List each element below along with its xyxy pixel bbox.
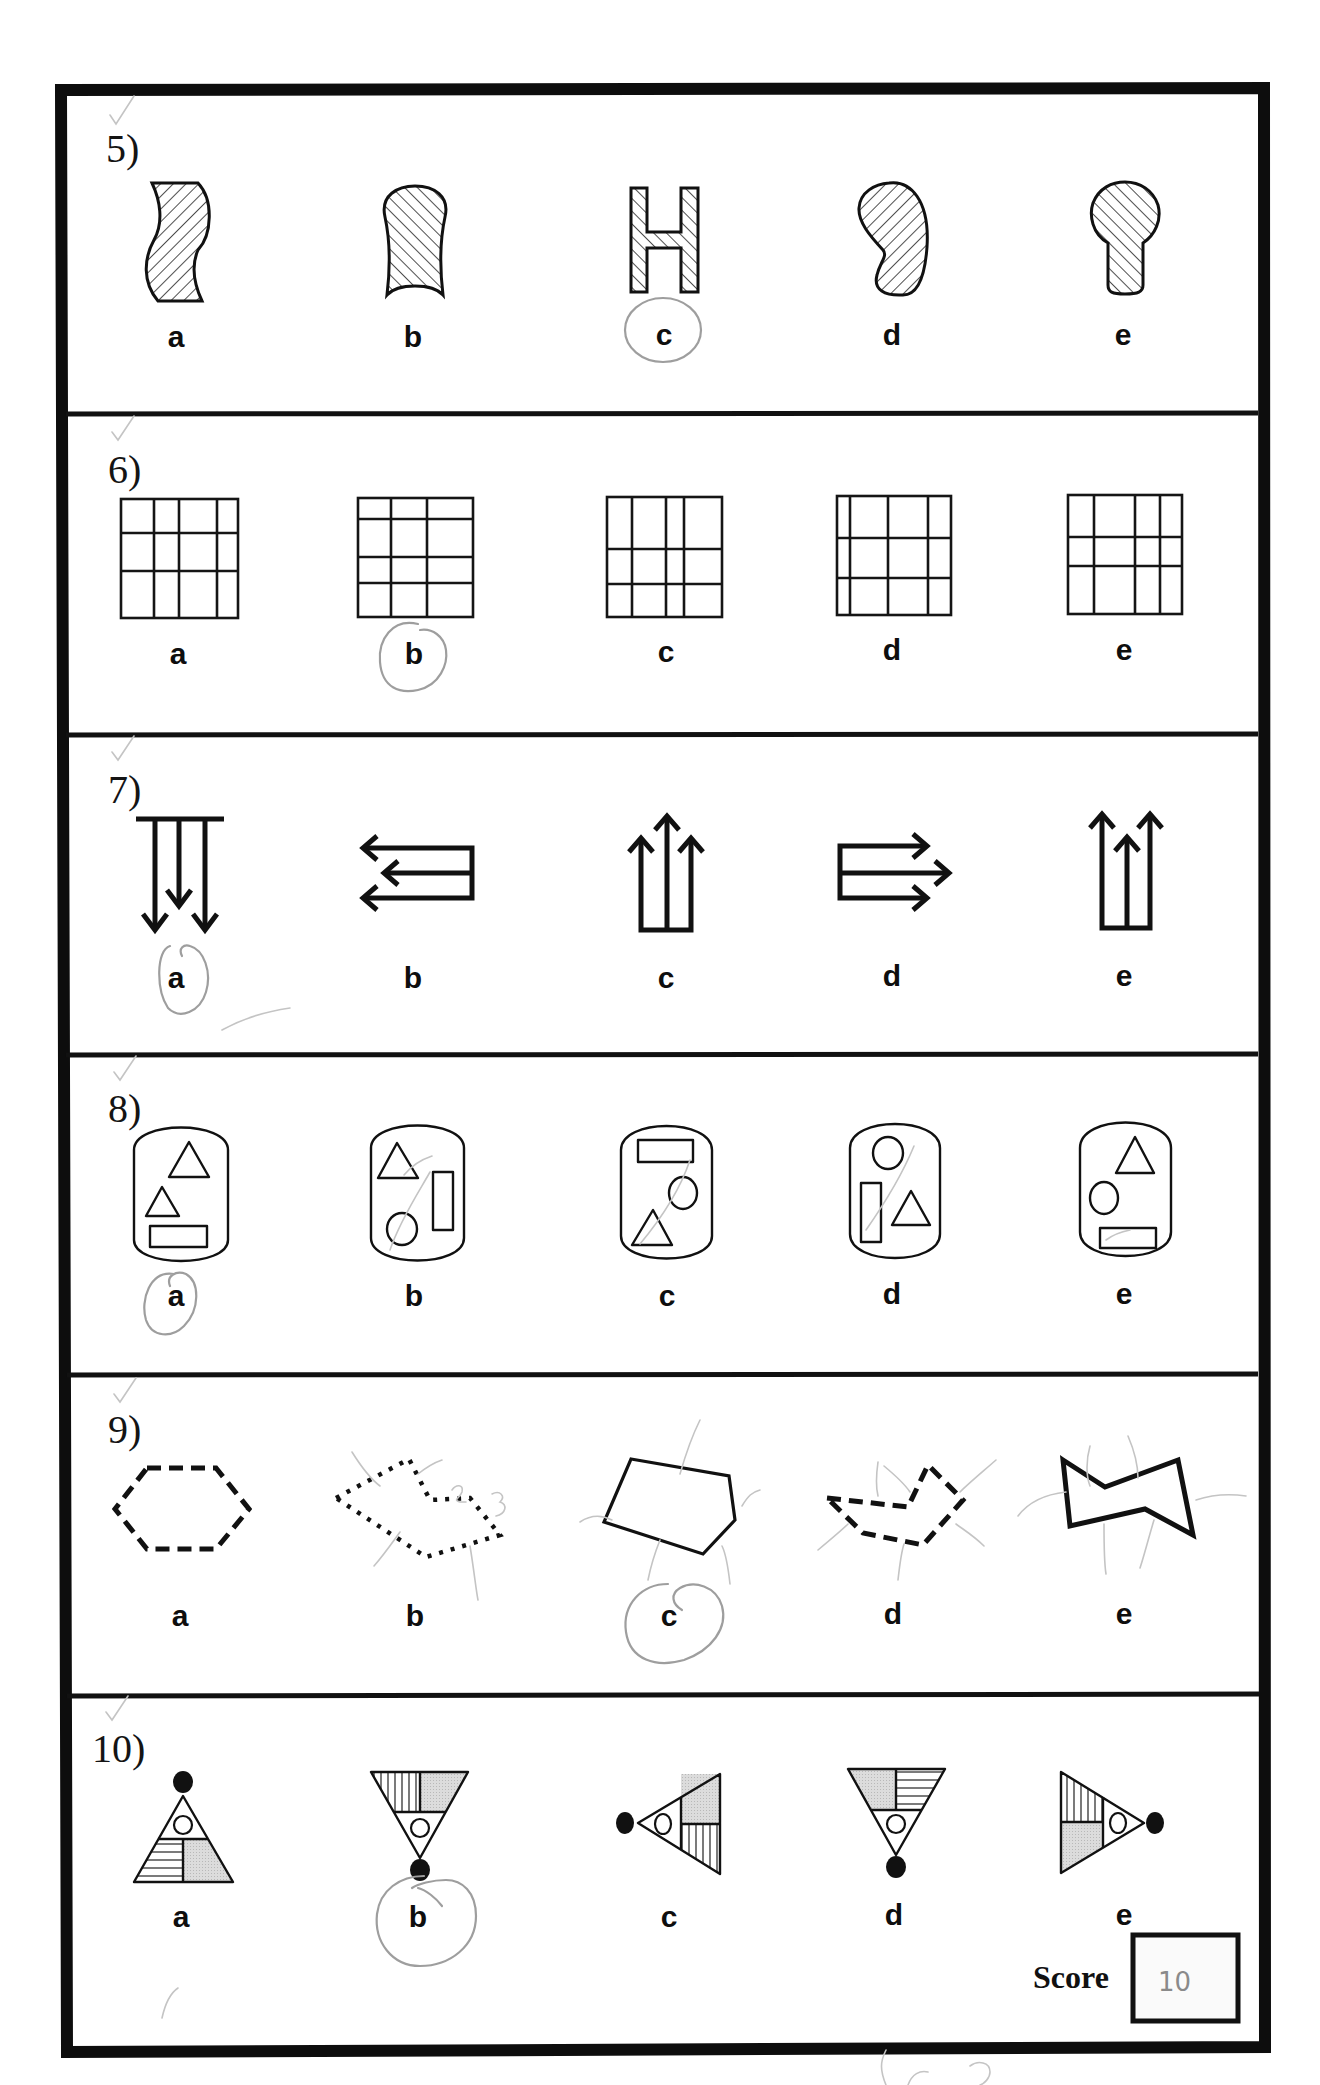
option-7b[interactable]: b	[363, 836, 472, 994]
check-mark-icon	[112, 416, 134, 440]
option-label: b	[406, 1599, 424, 1632]
worksheet-page: 5) a b c d e 6)	[0, 0, 1320, 2085]
option-8a[interactable]: a	[134, 1128, 228, 1335]
question-number: 9)	[108, 1407, 141, 1452]
ring-icon	[887, 1815, 905, 1833]
arrows-up-icon	[629, 816, 703, 930]
option-label: b	[405, 637, 423, 670]
letter-h-shape	[631, 188, 698, 292]
rectangle-icon	[433, 1172, 453, 1230]
option-label: a	[168, 320, 185, 353]
option-5d[interactable]: d	[859, 183, 927, 351]
rectangle-icon	[638, 1140, 693, 1162]
option-9a[interactable]: a	[115, 1468, 249, 1632]
option-10b[interactable]: b	[371, 1772, 476, 1966]
option-label: e	[1116, 1277, 1133, 1310]
pencil-stroke	[222, 1008, 290, 1030]
option-label: e	[1116, 633, 1133, 666]
option-7c[interactable]: c	[629, 816, 703, 994]
pencil-strokes	[818, 1460, 996, 1580]
question-number: 6)	[108, 447, 141, 492]
option-label: b	[409, 1900, 427, 1933]
option-9d[interactable]: d	[818, 1460, 996, 1630]
option-label: c	[658, 961, 675, 994]
capsule-outline	[850, 1124, 940, 1258]
option-6d[interactable]: d	[837, 496, 951, 666]
option-label: a	[170, 637, 187, 670]
option-9c[interactable]: c	[580, 1420, 760, 1663]
keyhole-shape	[1091, 182, 1159, 294]
option-10a[interactable]: a	[134, 1771, 233, 1933]
circle-icon	[669, 1177, 697, 1209]
score-label: Score	[1033, 1959, 1109, 1995]
outer-frame	[61, 88, 1265, 2052]
black-dot-icon	[173, 1771, 193, 1793]
option-label: b	[405, 1279, 423, 1312]
question-number: 10)	[92, 1726, 145, 1771]
arrows-right-icon	[840, 834, 949, 910]
option-5e[interactable]: e	[1091, 182, 1159, 351]
question-6: 6) a b c	[108, 416, 1182, 691]
bean-shape	[859, 183, 927, 295]
option-8e[interactable]: e	[1080, 1123, 1171, 1311]
pentagon-shape	[604, 1459, 735, 1554]
option-10e[interactable]: e	[1061, 1772, 1164, 1931]
option-label: a	[172, 1599, 189, 1632]
option-6e[interactable]: e	[1068, 495, 1182, 666]
triangle-icon	[378, 1143, 418, 1178]
arrows-down-icon	[136, 819, 224, 930]
option-5a[interactable]: a	[146, 183, 209, 353]
option-6b[interactable]: b	[358, 498, 473, 691]
triangle-icon	[892, 1191, 930, 1225]
option-10c[interactable]: c	[616, 1774, 720, 1933]
question-number: 5)	[106, 126, 139, 171]
ring-icon	[174, 1816, 192, 1834]
triangle-icon	[1116, 1137, 1154, 1173]
option-label: d	[883, 318, 901, 351]
circle-icon	[1090, 1182, 1118, 1214]
black-dot-icon	[616, 1812, 634, 1834]
ring-icon	[1110, 1813, 1126, 1833]
arrows-up-icon	[1090, 814, 1162, 928]
score-value: 10	[1158, 1967, 1191, 1997]
capsule-outline	[134, 1128, 228, 1262]
option-7d[interactable]: d	[840, 834, 949, 992]
dashed-polygon-shape	[827, 1465, 963, 1545]
option-label: b	[404, 961, 422, 994]
option-8b[interactable]: b	[371, 1126, 464, 1313]
pencil-annotations	[352, 1452, 505, 1600]
arrows-left-icon	[363, 836, 472, 910]
option-5c[interactable]: c	[625, 188, 701, 362]
question-number: 7)	[108, 767, 141, 812]
option-label: a	[168, 961, 185, 994]
score-area: Score 10	[1033, 1935, 1238, 2021]
check-mark-icon	[110, 96, 134, 124]
option-label: e	[1115, 318, 1132, 351]
option-6c[interactable]: c	[607, 497, 722, 668]
option-9e[interactable]: e	[1018, 1436, 1246, 1630]
option-8c[interactable]: c	[621, 1126, 712, 1312]
option-label: d	[883, 959, 901, 992]
option-label: e	[1116, 1597, 1133, 1630]
option-7a[interactable]: a	[136, 819, 224, 1014]
ring-icon	[411, 1819, 429, 1837]
option-9b[interactable]: b	[336, 1452, 505, 1632]
circle-icon	[387, 1213, 417, 1245]
option-6a[interactable]: a	[121, 499, 238, 670]
dome-shape	[384, 186, 446, 295]
check-mark-icon	[106, 1696, 128, 1720]
triangle-icon	[632, 1210, 672, 1245]
question-7: 7) a b	[108, 736, 1162, 1030]
question-9: 9) a b c	[108, 1378, 1246, 1663]
check-mark-icon	[114, 1378, 136, 1402]
option-label: e	[1116, 1898, 1133, 1931]
triangle-icon	[146, 1187, 179, 1216]
question-number: 8)	[108, 1086, 141, 1131]
option-7e[interactable]: e	[1090, 814, 1162, 992]
option-10d[interactable]: d	[848, 1769, 945, 1931]
black-dot-icon	[1146, 1812, 1164, 1834]
option-5b[interactable]: b	[384, 186, 446, 353]
option-label: d	[885, 1898, 903, 1931]
pencil-strokes	[1018, 1436, 1246, 1574]
option-8d[interactable]: d	[850, 1124, 940, 1310]
